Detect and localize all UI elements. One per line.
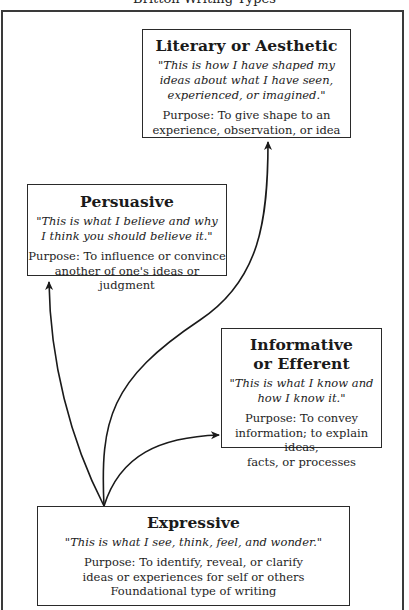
quote-line: "This is what I believe and why bbox=[28, 214, 226, 229]
expressive-box: Expressive "This is what I see, think, f… bbox=[37, 506, 350, 606]
purpose-line: experience, observation, or idea bbox=[143, 123, 350, 138]
heading-line: or Efferent bbox=[222, 354, 381, 373]
purpose-line: another of one's ideas or judgment bbox=[28, 264, 226, 293]
persuasive-heading: Persuasive bbox=[28, 192, 226, 211]
quote-line: I think you should believe it." bbox=[28, 229, 226, 244]
quote-line: ideas about what I have seen, bbox=[143, 73, 350, 88]
quote-line: how I know it." bbox=[222, 391, 381, 406]
literary-quote: "This is how I have shaped my ideas abou… bbox=[143, 58, 350, 103]
expressive-purpose: Purpose: To identify, reveal, or clarify… bbox=[38, 555, 349, 599]
expressive-heading: Expressive bbox=[38, 513, 349, 532]
informative-quote: "This is what I know and how I know it." bbox=[222, 376, 381, 406]
diagram-title: Britton Writing Types bbox=[0, 0, 409, 6]
persuasive-box: Persuasive "This is what I believe and w… bbox=[27, 184, 227, 276]
purpose-line: information; to explain ideas, bbox=[222, 426, 381, 455]
purpose-line: Foundational type of writing bbox=[38, 584, 349, 599]
literary-heading: Literary or Aesthetic bbox=[143, 36, 350, 55]
expressive-quote: "This is what I see, think, feel, and wo… bbox=[38, 535, 349, 550]
purpose-line: Purpose: To influence or convince bbox=[28, 249, 226, 264]
quote-line: "This is how I have shaped my bbox=[143, 58, 350, 73]
purpose-line: Purpose: To identify, reveal, or clarify bbox=[38, 555, 349, 570]
persuasive-quote: "This is what I believe and why I think … bbox=[28, 214, 226, 244]
purpose-line: Purpose: To give shape to an bbox=[143, 108, 350, 123]
informative-box: Informative or Efferent "This is what I … bbox=[221, 328, 382, 448]
quote-line: "This is what I know and bbox=[222, 376, 381, 391]
persuasive-purpose: Purpose: To influence or convince anothe… bbox=[28, 249, 226, 293]
literary-box: Literary or Aesthetic "This is how I hav… bbox=[142, 29, 351, 138]
purpose-line: facts, or processes bbox=[222, 455, 381, 470]
purpose-line: Purpose: To convey bbox=[222, 411, 381, 426]
literary-purpose: Purpose: To give shape to an experience,… bbox=[143, 108, 350, 137]
purpose-line: ideas or experiences for self or others bbox=[38, 570, 349, 585]
informative-heading: Informative or Efferent bbox=[222, 335, 381, 373]
quote-line: experienced, or imagined." bbox=[143, 88, 350, 103]
informative-purpose: Purpose: To convey information; to expla… bbox=[222, 411, 381, 469]
heading-line: Informative bbox=[222, 335, 381, 354]
quote-line: "This is what I see, think, feel, and wo… bbox=[38, 535, 349, 550]
